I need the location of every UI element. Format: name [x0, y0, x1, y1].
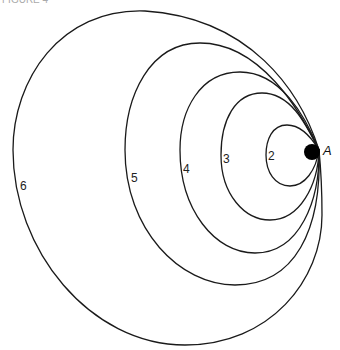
curve-3-label: 3 [223, 152, 230, 166]
point-a-dot [304, 144, 320, 160]
point-a-label: A [322, 143, 332, 158]
curve-5-label: 5 [131, 171, 138, 185]
curve-6-label: 6 [20, 179, 27, 193]
curve-4-label: 4 [183, 162, 190, 176]
curve-2-label: 2 [268, 149, 275, 163]
nested-curves-diagram: FIGURE 4 A 2 3 4 5 6 [0, 0, 340, 350]
curve-6 [13, 11, 322, 345]
figure-title: FIGURE 4 [2, 0, 49, 5]
curve-4 [180, 72, 319, 253]
